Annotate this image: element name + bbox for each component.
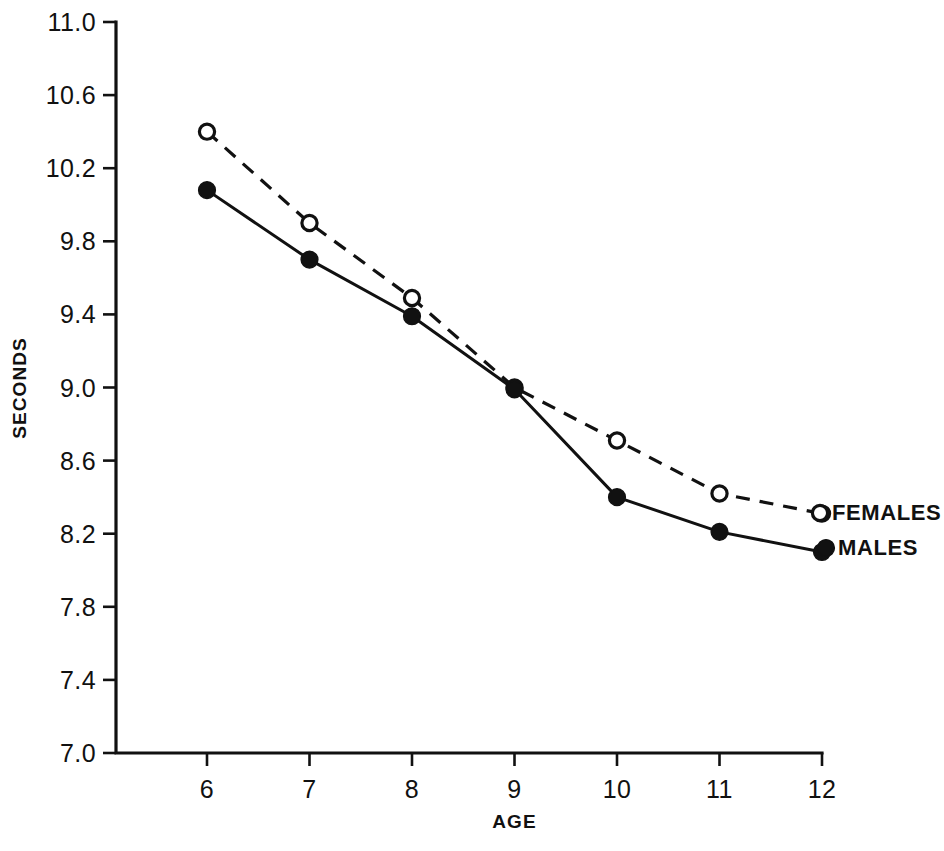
- marker-males-8: [404, 308, 421, 325]
- y-tick-label-5: 9.0: [60, 375, 96, 400]
- axes-group: [116, 22, 822, 753]
- y-tick-label-3: 9.8: [60, 229, 96, 254]
- y-tick-label-6: 8.6: [60, 448, 96, 473]
- y-tick-label-4: 9.4: [60, 302, 96, 327]
- marker-males-10: [609, 489, 626, 506]
- marker-males-9: [506, 381, 523, 398]
- marker-females-10: [609, 433, 624, 448]
- marker-females-7: [302, 215, 317, 230]
- chart-figure: 11.010.610.29.89.49.08.68.27.87.47.0 678…: [0, 0, 944, 851]
- y-tick-label-9: 7.4: [60, 667, 96, 692]
- series-group: [207, 132, 826, 552]
- marker-females-8: [404, 290, 419, 305]
- marker-males-6: [199, 182, 216, 199]
- series-label-females: FEMALES: [832, 502, 941, 524]
- x-tick-label-4: 10: [603, 777, 632, 802]
- series-line-females: [207, 132, 822, 514]
- y-tick-label-1: 10.6: [46, 83, 96, 108]
- legend-marker-males: [818, 540, 835, 557]
- legend-marker-females: [812, 505, 827, 520]
- series-label-males: MALES: [838, 537, 918, 559]
- markers-group: [199, 124, 835, 560]
- x-axis-title: AGE: [492, 812, 536, 831]
- y-axis-title: SECONDS: [10, 337, 29, 439]
- x-tick-label-0: 6: [200, 777, 214, 802]
- marker-males-11: [711, 523, 728, 540]
- y-tick-label-2: 10.2: [46, 156, 96, 181]
- x-tick-label-5: 11: [706, 777, 733, 802]
- x-tick-label-2: 8: [405, 777, 419, 802]
- marker-females-6: [199, 124, 214, 139]
- plot-area: [0, 0, 944, 851]
- y-tick-label-8: 7.8: [60, 594, 96, 619]
- marker-males-7: [301, 251, 318, 268]
- x-tick-label-1: 7: [302, 777, 316, 802]
- x-tick-label-3: 9: [507, 777, 521, 802]
- axis-spine: [116, 22, 822, 753]
- x-tick-label-6: 12: [808, 777, 837, 802]
- y-tick-label-10: 7.0: [60, 741, 96, 766]
- series-line-males: [207, 190, 826, 552]
- y-tick-label-7: 8.2: [60, 521, 96, 546]
- y-tick-label-0: 11.0: [48, 10, 96, 35]
- marker-females-11: [712, 486, 727, 501]
